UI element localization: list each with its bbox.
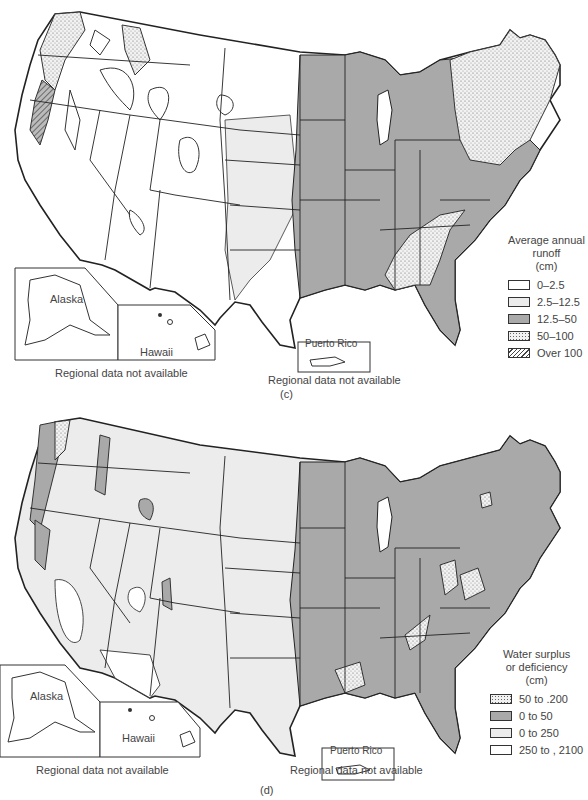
swatch-medium — [508, 314, 530, 324]
legend-title-line3: (cm) — [490, 674, 583, 687]
regional-data-note-right: Regional data not available — [290, 764, 423, 776]
legend-title-line2: or deficiency — [490, 661, 583, 674]
alaska-label: Alaska — [30, 690, 63, 702]
legend-item: 0 to 50 — [490, 707, 583, 724]
swatch-light — [508, 297, 530, 307]
hawaii-label: Hawaii — [140, 346, 173, 358]
swatch-medium — [490, 711, 512, 721]
legend-item: Over 100 — [508, 344, 585, 361]
legend-item: 2.5–12.5 — [508, 293, 585, 310]
swatch-stipple — [508, 331, 530, 341]
regional-data-note-right: Regional data not available — [268, 374, 401, 386]
puerto-rico-label: Puerto Rico — [305, 338, 357, 349]
alaska-label: Alaska — [50, 293, 83, 305]
swatch-white — [508, 280, 530, 290]
runoff-map-panel: Alaska Hawaii Puerto Rico Regional data … — [0, 0, 588, 400]
runoff-legend: Average annual runoff (cm) 0–2.5 2.5–12.… — [508, 234, 585, 361]
legend-item: 0–2.5 — [508, 276, 585, 293]
water-surplus-legend: Water surplus or deficiency (cm) 50 to .… — [490, 648, 583, 758]
legend-title-line1: Average annual — [508, 234, 585, 247]
legend-item: 250 to , 2100 — [490, 741, 583, 758]
panel-c-label: (c) — [280, 388, 293, 400]
swatch-white — [490, 745, 512, 755]
legend-item: 50 to .200 — [490, 690, 583, 707]
puerto-rico-label: Puerto Rico — [330, 745, 382, 756]
legend-title-line3: (cm) — [508, 260, 585, 273]
us-runoff-map — [0, 0, 588, 400]
legend-item: 12.5–50 — [508, 310, 585, 327]
swatch-hatch — [508, 348, 530, 358]
panel-d-label: (d) — [260, 784, 273, 796]
regional-data-note-left: Regional data not available — [36, 764, 169, 776]
regional-data-note-left: Regional data not available — [55, 367, 188, 379]
swatch-light — [490, 728, 512, 738]
swatch-stipple — [490, 694, 512, 704]
legend-title-line2: runoff — [508, 247, 585, 260]
legend-item: 50–100 — [508, 327, 585, 344]
hawaii-label: Hawaii — [122, 732, 155, 744]
water-surplus-map-panel: Alaska Hawaii Puerto Rico Regional data … — [0, 400, 588, 800]
legend-item: 0 to 250 — [490, 724, 583, 741]
legend-title-line1: Water surplus — [490, 648, 583, 661]
